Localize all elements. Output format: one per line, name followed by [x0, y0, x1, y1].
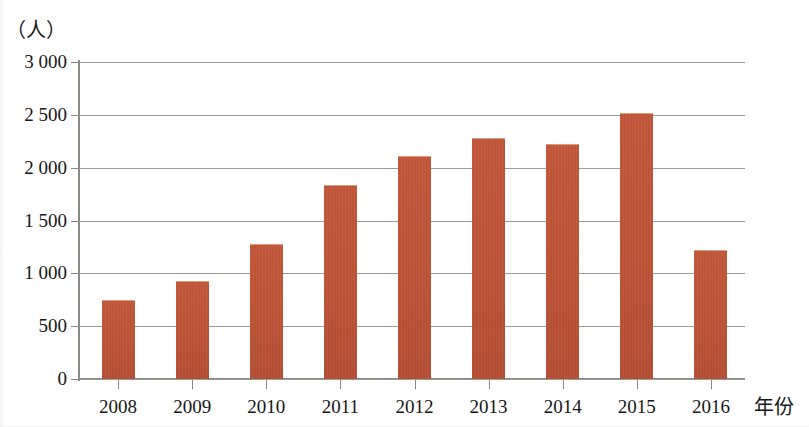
y-axis-tick [71, 62, 79, 63]
y-axis-tick-label: 1 500 [1, 211, 67, 230]
x-axis-tick-label: 2008 [79, 396, 157, 418]
x-axis-tick-label: 2011 [301, 396, 379, 418]
x-axis-tick [637, 380, 638, 389]
y-axis-tick [71, 168, 79, 169]
x-axis-tick-label: 2014 [524, 396, 602, 418]
x-axis-tick [489, 380, 490, 389]
y-axis-unit-label: （人） [6, 14, 66, 43]
y-axis-tick-label: 500 [1, 316, 67, 335]
bar [102, 300, 135, 379]
x-axis-tick [118, 380, 119, 389]
x-axis-tick-label: 2009 [153, 396, 231, 418]
x-axis-tick [563, 380, 564, 389]
y-axis-tick [71, 326, 79, 327]
y-axis-tick-label: 1 000 [1, 263, 67, 282]
x-axis-tick [711, 380, 712, 389]
y-axis-tick-label: 3 000 [1, 52, 67, 71]
bar-chart: （人） 05001 0001 5002 0002 5003 000 年份 200… [0, 0, 809, 427]
x-axis-tick [266, 380, 267, 389]
x-axis-tick [192, 380, 193, 389]
x-axis-tick-label: 2010 [227, 396, 305, 418]
scan-edge-decoration [0, 0, 4, 427]
bar [176, 281, 209, 379]
x-axis-tick [415, 380, 416, 389]
bar [546, 144, 579, 379]
x-axis-tick-label: 2012 [376, 396, 454, 418]
x-axis-tick [340, 380, 341, 389]
y-axis-tick-label: 2 500 [1, 105, 67, 124]
bar [620, 113, 653, 379]
y-axis-tick [71, 221, 79, 222]
x-axis-tick-label: 2016 [672, 396, 750, 418]
y-axis-tick [71, 273, 79, 274]
gridline [78, 379, 745, 380]
y-axis-tick-label: 2 000 [1, 158, 67, 177]
x-axis-tick-label: 2015 [598, 396, 676, 418]
bar [398, 156, 431, 379]
plot-area: 05001 0001 5002 0002 5003 000 [78, 62, 745, 379]
y-axis-tick [71, 115, 79, 116]
x-axis-title: 年份 [754, 396, 794, 418]
bar [250, 244, 283, 379]
x-axis-tick-label: 2013 [450, 396, 528, 418]
gridline [78, 62, 745, 63]
bar [694, 250, 727, 379]
bar [324, 185, 357, 379]
bar [472, 138, 505, 379]
y-axis-tick [71, 379, 79, 380]
y-axis-tick-label: 0 [1, 369, 67, 388]
